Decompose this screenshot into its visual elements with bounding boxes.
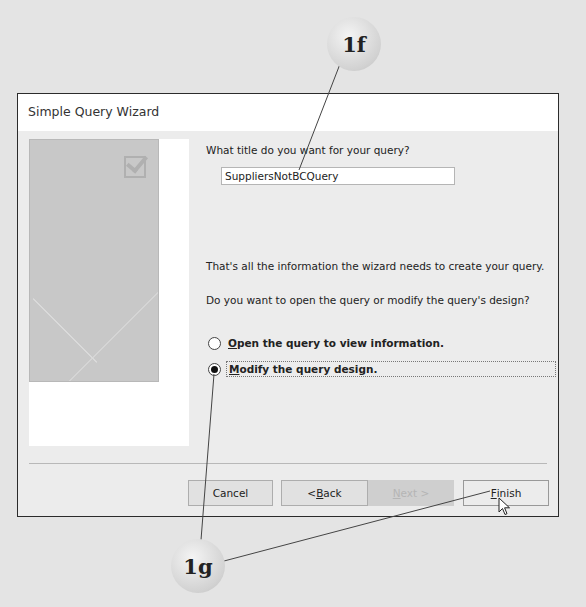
- next-button[interactable]: Next >: [368, 480, 454, 506]
- decorative-line: [33, 298, 97, 362]
- accel-key: O: [228, 337, 237, 349]
- mouse-cursor-icon: [498, 497, 512, 517]
- accel-key: M: [229, 363, 239, 375]
- wizard-illustration-panel: [29, 139, 189, 446]
- accel-key: N: [393, 487, 401, 499]
- radio-open-query[interactable]: [208, 337, 221, 350]
- radio-modify-design[interactable]: [208, 363, 221, 376]
- title-prompt: What title do you want for your query?: [206, 144, 410, 156]
- cancel-button[interactable]: Cancel: [188, 480, 273, 506]
- back-label: ack: [323, 487, 341, 499]
- back-button[interactable]: < Back: [281, 480, 368, 506]
- label-text: odify the query design.: [239, 363, 377, 375]
- option-modify-design-label[interactable]: Modify the query design.: [226, 361, 556, 377]
- checkbox-graphic-icon: [124, 156, 146, 178]
- title-bar: Simple Query Wizard: [18, 94, 558, 131]
- callout-step-1f: 1f: [327, 17, 381, 71]
- option-open-query-label[interactable]: Open the query to view information.: [226, 336, 446, 350]
- label-text: pen the query to view information.: [237, 337, 444, 349]
- info-text: That's all the information the wizard ne…: [206, 260, 544, 272]
- back-prefix: <: [307, 487, 316, 499]
- accel-key: B: [316, 487, 323, 499]
- choice-prompt: Do you want to open the query or modify …: [206, 294, 530, 306]
- decorative-line: [60, 291, 159, 382]
- option-modify-design[interactable]: Modify the query design.: [208, 360, 556, 378]
- callout-step-1g: 1g: [171, 539, 225, 593]
- next-label: ext >: [401, 487, 430, 499]
- divider: [29, 463, 547, 464]
- option-open-query[interactable]: Open the query to view information.: [208, 334, 446, 352]
- wizard-illustration: [29, 139, 159, 382]
- simple-query-wizard-dialog: Simple Query Wizard What title do you wa…: [17, 93, 559, 517]
- dialog-title: Simple Query Wizard: [28, 104, 159, 119]
- query-title-input[interactable]: [221, 167, 455, 185]
